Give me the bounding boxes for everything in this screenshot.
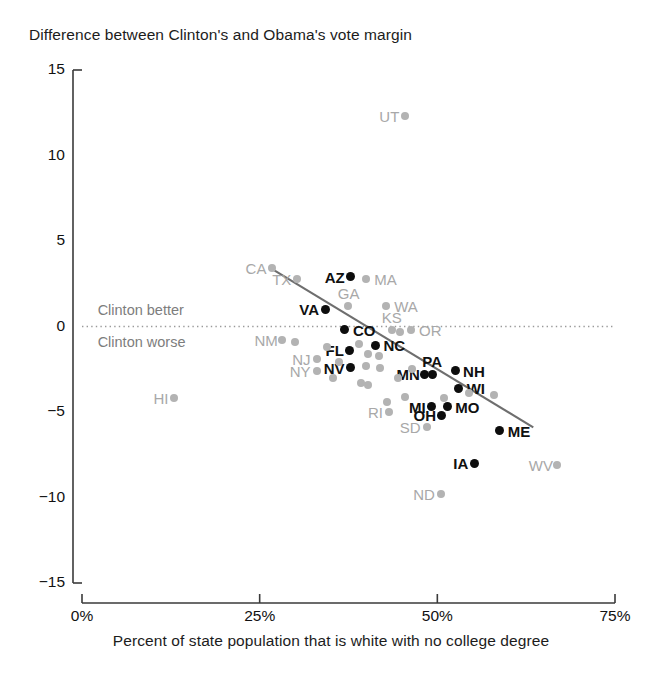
point-label-or: OR	[419, 323, 442, 338]
data-point-ks[interactable]	[388, 326, 396, 334]
point-label-ny: NY	[289, 364, 311, 379]
y-tick-label-3: 0	[10, 317, 65, 335]
y-tick-label-5: −10	[10, 488, 65, 506]
data-point-ia[interactable]	[470, 459, 479, 468]
point-label-az: AZ	[323, 270, 345, 285]
annotation-clinton-better: Clinton better	[98, 302, 184, 318]
data-point-unlabeled[interactable]	[364, 350, 372, 358]
data-point-pa[interactable]	[428, 370, 437, 379]
x-axis-label: Percent of state population that is whit…	[0, 632, 662, 650]
point-label-nm: NM	[254, 333, 276, 348]
point-label-va: VA	[297, 302, 319, 317]
data-point-wi[interactable]	[454, 384, 463, 393]
data-point-ga[interactable]	[344, 302, 352, 310]
y-tick-label-1: 10	[10, 146, 65, 164]
data-point-tx[interactable]	[293, 275, 301, 283]
data-point-nc[interactable]	[371, 341, 380, 350]
x-tick-label-2: 50%	[397, 607, 477, 625]
point-label-ga: GA	[338, 286, 360, 301]
point-label-ks: KS	[382, 310, 402, 325]
y-tick-label-2: 5	[10, 231, 65, 249]
annotation-clinton-worse: Clinton worse	[98, 334, 186, 350]
data-point-ny[interactable]	[313, 367, 321, 375]
data-point-ma[interactable]	[362, 275, 370, 283]
point-label-mo: MO	[455, 400, 479, 415]
y-tick-label-4: −5	[10, 402, 65, 420]
x-tick-label-1: 25%	[220, 607, 300, 625]
data-point-nj[interactable]	[313, 355, 321, 363]
x-tick-label-0: 0%	[42, 607, 122, 625]
point-label-sd: SD	[399, 420, 421, 435]
point-label-nh: NH	[463, 364, 485, 379]
point-label-tx: TX	[269, 272, 291, 287]
data-point-unlabeled[interactable]	[362, 362, 370, 370]
point-label-hi: HI	[146, 391, 168, 406]
point-label-co: CO	[353, 323, 376, 338]
data-point-unlabeled[interactable]	[329, 374, 337, 382]
data-point-unlabeled[interactable]	[401, 393, 409, 401]
data-point-unlabeled[interactable]	[364, 381, 372, 389]
point-label-ma: MA	[374, 272, 397, 287]
point-label-ia: IA	[446, 456, 468, 471]
y-tick-label-6: −15	[10, 573, 65, 591]
point-label-ri: RI	[361, 405, 383, 420]
point-label-pa: PA	[422, 354, 442, 369]
point-label-ut: UT	[377, 109, 399, 124]
scatter-chart: Difference between Clinton's and Obama's…	[0, 0, 662, 680]
data-point-oh[interactable]	[437, 411, 446, 420]
point-label-wv: WV	[529, 458, 551, 473]
data-point-nd[interactable]	[437, 490, 445, 498]
data-point-wv[interactable]	[553, 461, 561, 469]
y-tick-label-0: 15	[10, 60, 65, 78]
data-point-unlabeled[interactable]	[375, 352, 383, 360]
data-point-unlabeled[interactable]	[394, 374, 402, 382]
point-label-nc: NC	[384, 338, 406, 353]
point-label-nd: ND	[413, 487, 435, 502]
point-label-ca: CA	[244, 261, 266, 276]
data-point-unlabeled[interactable]	[396, 328, 404, 336]
data-point-unlabeled[interactable]	[355, 340, 363, 348]
data-point-va[interactable]	[321, 305, 330, 314]
data-point-unlabeled[interactable]	[383, 398, 391, 406]
data-point-ri[interactable]	[385, 408, 393, 416]
x-tick-label-3: 75%	[575, 607, 655, 625]
point-label-me: ME	[508, 424, 531, 439]
data-point-or[interactable]	[407, 326, 415, 334]
data-point-unlabeled[interactable]	[408, 365, 416, 373]
